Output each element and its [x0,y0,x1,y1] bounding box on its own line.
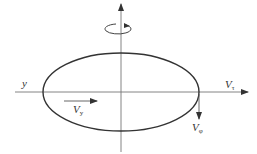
y-axis-label: y [22,78,27,89]
v-y-label: Vy [73,104,83,117]
diagram-canvas [0,0,257,154]
rotation-arrow-icon [105,23,131,34]
v-phi-label: Vφ [192,122,203,135]
v-tau-label: Vτ [225,79,235,92]
